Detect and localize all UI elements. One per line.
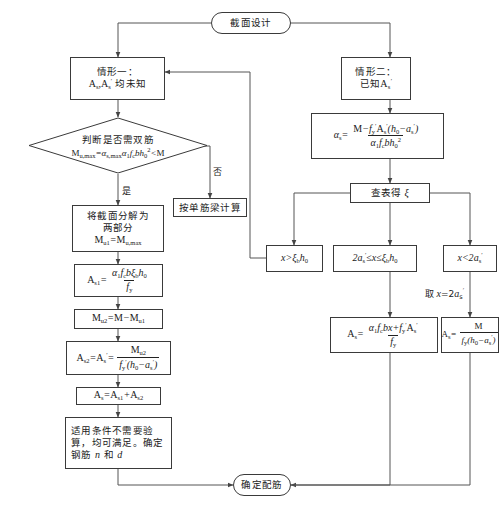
mu2-formula: Mu2=M−Mu1 <box>92 312 145 325</box>
edge-label-take-x: 取 x=2as′ <box>424 287 465 301</box>
node-condition-x-lt-2as: x<2as′ <box>443 245 497 272</box>
node-as-middle-formula: As= α1fcbx+fy′As′ fy <box>330 317 438 353</box>
terminal-start-label: 截面设计 <box>230 17 271 29</box>
node-lookup-xi: 查表得 ξ <box>350 183 430 203</box>
node-case-one: 情形一： As,As′ 均未知 <box>70 57 165 100</box>
case-one-line1: 情形一： <box>97 66 138 78</box>
alpha-s-formula: αs= M−fy′As′(h0−as′) α1fcbh02 <box>334 122 421 150</box>
terminal-end-label: 确定配筋 <box>241 479 282 491</box>
split-line3: Mu1=Mu,max <box>94 234 141 247</box>
single-beam-label: 按单筋梁计算 <box>179 202 241 214</box>
as-middle-formula: As= α1fcbx+fy′As′ fy <box>347 321 421 348</box>
node-split-section: 将截面分解为 两部分 Mu1=Mu,max <box>72 205 164 252</box>
flowchart-canvas: 截面设计 情形一： As,As′ 均未知 判断是否需双筋 Mu,max=αs,m… <box>0 0 502 513</box>
node-decision-double-reinforcement: 判断是否需双筋 Mu,max=αs,maxα1fcbh02<M <box>28 117 208 174</box>
case-one-line2: As,As′ 均未知 <box>89 77 147 91</box>
node-mu2-formula: Mu2=M−Mu1 <box>74 309 163 329</box>
condition-b-label: 2as′≤x≤ξbh0 <box>352 251 397 265</box>
case-two-line2: 已知As′ <box>360 77 393 91</box>
decision-line2: Mu,max=αs,maxα1fcbh02<M <box>71 146 164 159</box>
node-as1-formula: As1= α1fcbξbh0 fy <box>74 264 163 297</box>
node-single-reinforced-beam: 按单筋梁计算 <box>173 198 247 217</box>
as-right-formula: As= M fy(h0−as′) <box>441 322 498 347</box>
condition-a-label: x>ξbh0 <box>281 252 308 265</box>
lookup-xi-label: 查表得 ξ <box>371 187 409 200</box>
edge-label-no: 否 <box>212 165 223 178</box>
node-as2-formula: As2=As′= Mu2 fy′(h0−as′) <box>66 341 171 375</box>
case-two-line1: 情形二： <box>355 66 396 78</box>
as-sum-formula: As=As1+As2 <box>94 389 143 402</box>
split-line2: 两部分 <box>103 222 134 234</box>
node-conditions-satisfied: 适用条件不需要验 算，均可满足。确定 钢筋 n 和 d <box>65 417 172 469</box>
as1-formula: As1= α1fcbξbh0 fy <box>87 267 150 293</box>
node-as-sum-formula: As=As1+As2 <box>76 387 161 405</box>
terminal-start: 截面设计 <box>211 12 291 34</box>
final-left-line1: 适用条件不需要验 <box>71 425 153 437</box>
split-line1: 将截面分解为 <box>87 210 149 222</box>
final-left-line2: 算，均可满足。确定 <box>71 437 164 449</box>
node-condition-2as-le-x-le-xib-h0: 2as′≤x≤ξbh0 <box>333 245 417 272</box>
node-case-two: 情形二： 已知As′ <box>341 57 411 100</box>
edge-label-yes: 是 <box>121 184 132 197</box>
as2-formula: As2=As′= Mu2 fy′(h0−as′) <box>77 344 161 371</box>
terminal-end: 确定配筋 <box>233 474 291 496</box>
decision-line1: 判断是否需双筋 <box>82 132 154 146</box>
final-left-line3: 钢筋 n 和 d <box>71 449 123 462</box>
condition-c-label: x<2as′ <box>457 251 482 265</box>
node-as-right-formula: As= M fy(h0−as′) <box>441 317 499 353</box>
node-alpha-s-formula: αs= M−fy′As′(h0−as′) α1fcbh02 <box>311 113 444 159</box>
node-condition-x-gt-xib-h0: x>ξbh0 <box>266 245 323 272</box>
